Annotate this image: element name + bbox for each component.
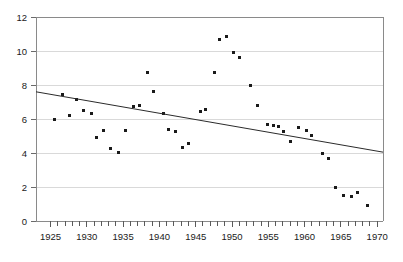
data-point	[117, 151, 120, 154]
x-tick-label-1950: 1950	[221, 231, 242, 242]
data-point	[366, 204, 369, 207]
data-point	[256, 104, 259, 107]
data-point	[138, 104, 141, 107]
x-tick-label-1970: 1970	[367, 231, 388, 242]
data-point	[181, 146, 184, 149]
data-point	[187, 142, 190, 145]
data-point	[68, 114, 71, 117]
data-point	[109, 147, 112, 150]
y-tick-label-12: 12	[16, 12, 27, 23]
data-point	[82, 109, 85, 112]
data-point	[289, 140, 292, 143]
x-tick-label-1935: 1935	[113, 231, 134, 242]
y-tick-marks	[31, 17, 36, 221]
data-point	[272, 124, 275, 127]
data-point	[297, 126, 300, 129]
y-tick-label-8: 8	[22, 80, 27, 91]
data-point	[350, 195, 353, 198]
x-tick-label-1955: 1955	[258, 231, 279, 242]
y-tick-label-6: 6	[22, 114, 27, 125]
data-point	[327, 157, 330, 160]
data-point	[305, 129, 308, 132]
data-point	[334, 186, 337, 189]
data-point	[124, 129, 127, 132]
x-tick-label-1945: 1945	[185, 231, 206, 242]
data-point	[213, 71, 216, 74]
data-point	[321, 152, 324, 155]
y-tick-label-2: 2	[22, 182, 27, 193]
x-tick-label-1925: 1925	[40, 231, 61, 242]
data-point	[277, 125, 280, 128]
data-point	[146, 71, 149, 74]
data-point	[225, 35, 228, 38]
data-point	[199, 110, 202, 113]
data-point	[152, 90, 155, 93]
data-point	[282, 130, 285, 133]
y-tick-label-4: 4	[22, 148, 27, 159]
data-point	[356, 191, 359, 194]
data-point	[53, 118, 56, 121]
data-point	[249, 84, 252, 87]
data-point	[232, 51, 235, 54]
chart-canvas: 1925193019351940194519501955196019651970…	[0, 0, 403, 262]
x-tick-label-1930: 1930	[76, 231, 97, 242]
data-point	[342, 194, 345, 197]
data-point	[132, 105, 135, 108]
data-point	[167, 128, 170, 131]
data-point	[90, 112, 93, 115]
data-point	[95, 136, 98, 139]
data-point	[310, 134, 313, 137]
data-point	[61, 93, 64, 96]
data-point	[174, 130, 177, 133]
x-axis-tick-labels: 1925193019351940194519501955196019651970	[40, 231, 388, 242]
x-tick-label-1965: 1965	[330, 231, 351, 242]
y-axis-tick-labels: 024681012	[16, 12, 27, 227]
data-point	[238, 56, 241, 59]
y-tick-label-10: 10	[16, 46, 27, 57]
x-tick-marks	[51, 221, 378, 227]
data-point	[266, 123, 269, 126]
x-tick-label-1960: 1960	[294, 231, 315, 242]
y-tick-label-0: 0	[22, 216, 27, 227]
x-tick-label-1940: 1940	[149, 231, 170, 242]
data-point	[218, 38, 221, 41]
scatter-chart: 1925193019351940194519501955196019651970…	[0, 0, 403, 262]
data-point	[102, 129, 105, 132]
data-point	[204, 108, 207, 111]
